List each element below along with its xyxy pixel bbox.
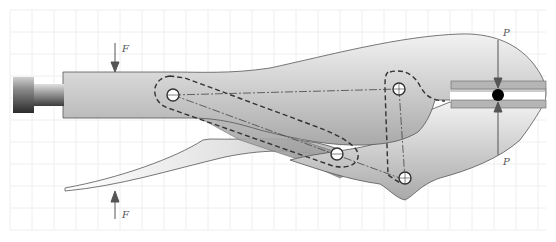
pin-A — [167, 89, 179, 101]
pin-D — [399, 172, 411, 184]
pliers-diagram: F F P P — [0, 0, 556, 242]
workpiece — [492, 89, 504, 101]
force-arrow-bottom — [111, 191, 119, 219]
force-label-bottom: F — [121, 209, 130, 220]
jaw-force-label-top: P — [502, 27, 510, 38]
jaw-force-label-bottom: P — [502, 156, 510, 167]
adjusting-screw-shaft — [33, 84, 64, 106]
pin-B — [393, 83, 405, 95]
adjusting-screw-knob — [13, 77, 34, 113]
force-label-top: F — [121, 43, 130, 54]
pin-C — [331, 148, 343, 160]
force-arrow-top — [111, 43, 119, 72]
